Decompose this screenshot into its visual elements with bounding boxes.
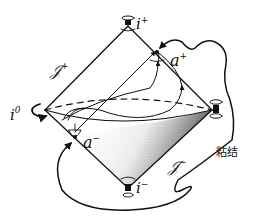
gluing-arrow-a-minus	[66, 143, 71, 148]
label-scri-minus: 𝒥−	[167, 157, 187, 176]
label-a-plus: a+	[170, 51, 187, 70]
label-i-plus: i+	[136, 15, 148, 33]
label-i-minus: i−	[136, 179, 148, 197]
i-plus-node	[121, 16, 135, 31]
conformal-diagram: i+ a+ i0 a− i− 𝒥+ 𝒥− 粘结	[0, 0, 259, 223]
label-i-zero: i0	[10, 105, 21, 124]
label-scri-plus: 𝒥+	[49, 61, 69, 80]
equator-back	[45, 99, 212, 110]
i-zero-node	[32, 104, 46, 117]
curved-worldline-1	[62, 62, 158, 120]
label-gluing: 粘结	[216, 145, 238, 159]
